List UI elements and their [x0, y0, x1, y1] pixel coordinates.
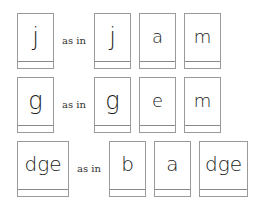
card-divider [95, 61, 130, 62]
example-letter: dge [200, 142, 247, 188]
example-card: a [154, 141, 191, 197]
card-divider [185, 125, 220, 126]
example-card: dge [199, 141, 248, 197]
target-letter: j [18, 14, 53, 60]
card-divider [110, 189, 145, 190]
example-card: b [109, 141, 146, 197]
as-in-label: as in [77, 163, 101, 174]
target-card-g: g [17, 77, 54, 133]
card-divider [18, 189, 68, 190]
example-letter: e [140, 78, 175, 124]
card-divider [200, 189, 247, 190]
target-letter: g [18, 78, 53, 124]
example-letter: b [110, 142, 145, 188]
example-letter: a [155, 142, 190, 188]
example-letter: a [140, 14, 175, 60]
example-card: j [94, 13, 131, 69]
card-divider [18, 61, 53, 62]
example-card: g [94, 77, 131, 133]
target-card-j: j [17, 13, 54, 69]
example-letter: g [95, 78, 130, 124]
example-card: m [184, 77, 221, 133]
card-divider [95, 125, 130, 126]
card-divider [140, 125, 175, 126]
example-letter: m [185, 78, 220, 124]
card-divider [140, 61, 175, 62]
card-divider [155, 189, 190, 190]
as-in-label: as in [62, 99, 86, 110]
target-letter: dge [18, 142, 68, 188]
example-letter: m [185, 14, 220, 60]
card-divider [18, 125, 53, 126]
example-card: m [184, 13, 221, 69]
target-card-dge: dge [17, 141, 69, 197]
card-divider [185, 61, 220, 62]
example-card: e [139, 77, 176, 133]
as-in-label: as in [62, 35, 86, 46]
example-card: a [139, 13, 176, 69]
example-letter: j [95, 14, 130, 60]
